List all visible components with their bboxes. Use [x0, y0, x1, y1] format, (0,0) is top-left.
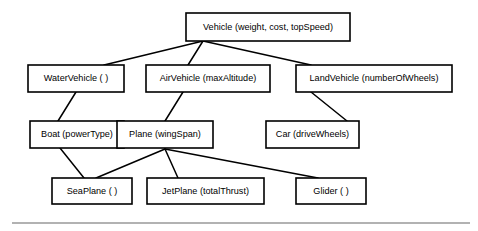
inheritance-edge-watervehicle-to-boat	[58, 92, 76, 121]
class-node-vehicle[interactable]: Vehicle (weight, cost, topSpeed)	[186, 13, 350, 41]
inheritance-edge-plane-to-glider	[165, 149, 318, 178]
class-node-label-car: Car (driveWheels)	[276, 129, 349, 139]
class-node-label-airvehicle: AirVehicle (maxAltitude)	[160, 73, 257, 83]
class-node-seaplane[interactable]: SeaPlane ( )	[52, 178, 132, 204]
hierarchy-canvas: Vehicle (weight, cost, topSpeed)WaterVeh…	[0, 0, 478, 231]
class-node-label-seaplane: SeaPlane ( )	[67, 186, 118, 196]
inheritance-edge-vehicle-to-watervehicle	[104, 41, 203, 65]
node-layer: Vehicle (weight, cost, topSpeed)WaterVeh…	[28, 13, 452, 204]
class-node-label-boat: Boat (powerType)	[41, 129, 113, 139]
class-node-car[interactable]: Car (driveWheels)	[266, 121, 359, 148]
class-node-label-glider: Glider ( )	[313, 186, 348, 196]
class-node-label-plane: Plane (wingSpan)	[129, 129, 201, 139]
class-node-boat[interactable]: Boat (powerType)	[30, 121, 124, 148]
inheritance-edge-boat-to-seaplane	[60, 148, 84, 178]
class-node-landvehicle[interactable]: LandVehicle (numberOfWheels)	[296, 65, 452, 92]
class-node-airvehicle[interactable]: AirVehicle (maxAltitude)	[146, 65, 270, 92]
class-node-glider[interactable]: Glider ( )	[296, 178, 366, 204]
class-node-label-watervehicle: WaterVehicle ( )	[44, 73, 108, 83]
class-node-label-jetplane: JetPlane (totalThrust)	[162, 186, 249, 196]
inheritance-edge-plane-to-seaplane	[96, 149, 165, 178]
inheritance-edge-plane-to-jetplane	[165, 149, 178, 178]
inheritance-edge-airvehicle-to-plane	[165, 92, 183, 121]
inheritance-edge-vehicle-to-landvehicle	[203, 41, 311, 65]
class-node-label-vehicle: Vehicle (weight, cost, topSpeed)	[203, 22, 333, 32]
class-node-label-landvehicle: LandVehicle (numberOfWheels)	[310, 73, 439, 83]
class-hierarchy-diagram: Vehicle (weight, cost, topSpeed)WaterVeh…	[0, 0, 478, 231]
class-node-watervehicle[interactable]: WaterVehicle ( )	[28, 65, 124, 92]
inheritance-edge-landvehicle-to-car	[311, 92, 347, 121]
class-node-jetplane[interactable]: JetPlane (totalThrust)	[147, 178, 264, 204]
class-node-plane[interactable]: Plane (wingSpan)	[117, 121, 213, 148]
edge-layer	[58, 41, 347, 178]
